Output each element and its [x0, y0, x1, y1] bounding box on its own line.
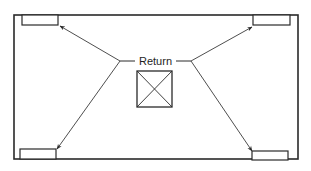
return-grille	[137, 71, 172, 107]
hvac-airflow-diagram: Return	[0, 0, 311, 171]
supply-vent-top-right	[253, 15, 290, 25]
airflow-arrow-bottom-left	[57, 61, 120, 149]
supply-vent-bottom-left	[20, 149, 56, 159]
airflow-arrow-bottom-right	[191, 61, 252, 151]
supply-vent-bottom-right	[252, 151, 288, 160]
airflow-arrow-top-left	[60, 26, 120, 61]
return-label: Return	[139, 55, 172, 67]
airflow-arrow-top-right	[191, 27, 252, 61]
supply-vent-top-left	[22, 15, 58, 25]
